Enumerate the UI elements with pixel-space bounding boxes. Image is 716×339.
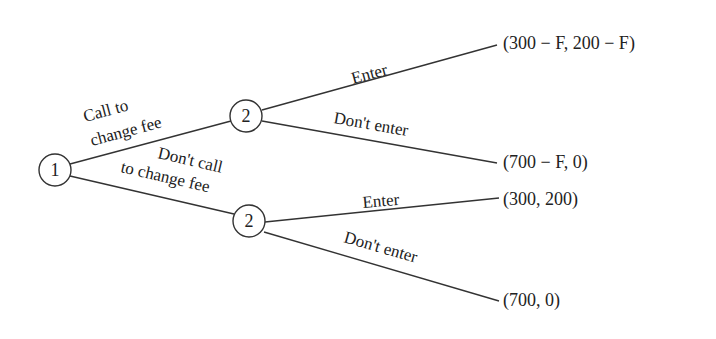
node-label: 2 [245,211,254,231]
node-label: 2 [242,106,251,126]
payoff-lower-enter: (300, 200) [503,189,578,210]
node-player-1: 1 [39,154,71,186]
node-label: 1 [51,160,60,180]
label-lower-dont-enter: Don't enter [342,228,420,267]
payoff-lower-dont-enter: (700, 0) [503,290,560,311]
node-player-2-lower: 2 [233,205,265,237]
label-lower-enter: Enter [362,190,401,212]
label-upper-enter: Enter [349,60,390,88]
node-player-2-upper: 2 [230,100,262,132]
game-tree: 1 2 2 Call to change fee Don't call to c… [0,0,716,339]
payoff-upper-dont-enter: (700 − F, 0) [503,152,588,173]
payoff-upper-enter: (300 − F, 200 − F) [503,33,635,54]
